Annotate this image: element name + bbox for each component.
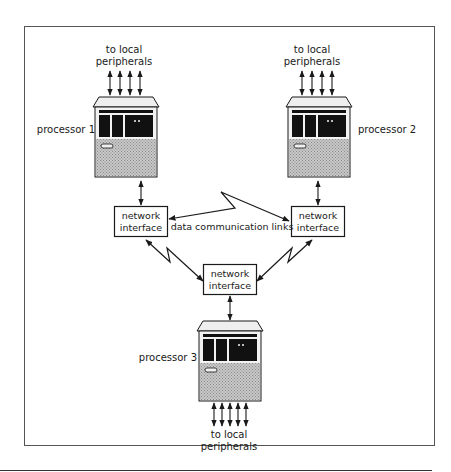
processor-3-label: processor 3 — [139, 352, 197, 363]
distributed-network-diagram: to local peripherals processor 1 to loca… — [0, 0, 451, 472]
network-interface-2: network interface — [292, 207, 345, 237]
network-interface-3: network interface — [204, 265, 257, 295]
processor-2: to local peripherals processor 2 — [284, 44, 416, 205]
peripherals-label-1b: peripherals — [96, 56, 152, 67]
peripherals-label-2b: peripherals — [284, 56, 340, 67]
links-label: data communication links — [171, 221, 294, 232]
network-interface-1: network interface — [115, 207, 168, 237]
processor-2-label: processor 2 — [358, 124, 416, 135]
peripherals-label-3b: peripherals — [201, 441, 257, 452]
ni-2-line1: network — [299, 210, 338, 221]
ni-2-line2: interface — [297, 222, 340, 233]
ni-3-line1: network — [211, 268, 250, 279]
ni-3-line2: interface — [209, 280, 252, 291]
ni-1-line2: interface — [120, 222, 163, 233]
peripherals-label-3a: to local — [211, 429, 248, 440]
ni-1-line1: network — [122, 210, 161, 221]
processor-1-label: processor 1 — [37, 124, 95, 135]
processor-1: to local peripherals processor 1 — [37, 44, 159, 205]
processor-3: processor 3 to local peripherals — [139, 296, 263, 452]
peripherals-label-2a: to local — [294, 44, 331, 55]
peripherals-label-1a: to local — [106, 44, 143, 55]
